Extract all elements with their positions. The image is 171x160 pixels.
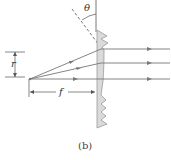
- fresnel-lens-diagram: [0, 0, 171, 160]
- r-label: r: [11, 58, 16, 69]
- ray-arrows: [69, 47, 152, 81]
- theta-arc: [82, 14, 96, 20]
- focal-point: [29, 78, 31, 80]
- f-label: f: [59, 86, 63, 97]
- figure-caption: (b): [78, 140, 92, 151]
- theta-label: θ: [84, 2, 90, 13]
